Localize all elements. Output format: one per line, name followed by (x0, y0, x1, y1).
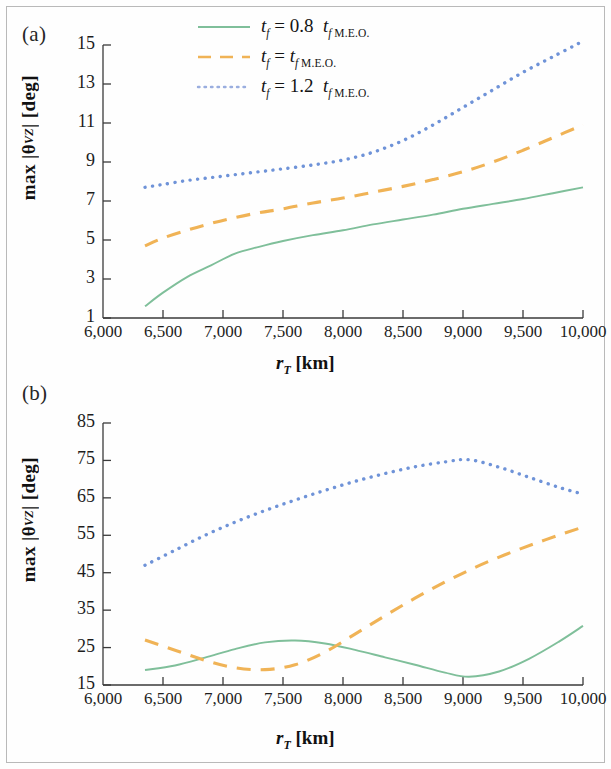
x-tick-label: 8,500 (369, 689, 437, 709)
y-tick-label: 45 (45, 561, 95, 582)
y-tick-label: 25 (45, 636, 95, 657)
y-axis-title-text: max |θVZ| [deg] (18, 75, 39, 200)
x-tick-label: 6,000 (69, 689, 137, 709)
y-tick-label: 7 (45, 189, 95, 210)
y-tick-label: 9 (45, 150, 95, 171)
y-tick-label: 15 (45, 33, 95, 54)
figure-container: (a) max |θVZ| [deg] tf = 0.8 tf M.E.O. t… (0, 0, 611, 769)
y-tick-label: 5 (45, 228, 95, 249)
x-tick-label: 9,000 (429, 689, 497, 709)
y-axis-title-text: max |θVZ| [deg] (18, 457, 39, 582)
x-tick-label: 7,500 (249, 689, 317, 709)
y-tick-label: 13 (45, 72, 95, 93)
y-tick-label: 35 (45, 598, 95, 619)
panel-a-plot-area (103, 45, 583, 318)
x-tick-label: 8,500 (369, 322, 437, 342)
panel-b-label: (b) (22, 381, 47, 406)
legend-item-0[interactable]: tf = 0.8 tf M.E.O. (196, 12, 370, 42)
panel-b: (b) max |θVZ| [deg] rT [km] 152535455565… (0, 379, 611, 769)
x-tick-label: 10,000 (549, 322, 611, 342)
panel-a-curves (103, 45, 583, 318)
panel-a-label: (a) (22, 22, 46, 47)
legend-swatch-solid-icon (196, 20, 252, 34)
panel-a-x-axis-title: rT [km] (276, 352, 335, 378)
panel-a-y-axis-title: max |θVZ| [deg] (18, 75, 40, 200)
x-tick-label: 8,000 (309, 689, 377, 709)
y-tick-label: 65 (45, 486, 95, 507)
x-tick-label: 9,000 (429, 322, 497, 342)
x-tick-label: 9,500 (489, 689, 557, 709)
panel-b-x-axis-title: rT [km] (276, 727, 335, 753)
x-tick-label: 9,500 (489, 322, 557, 342)
x-tick-label: 6,500 (129, 689, 197, 709)
panel-b-plot-area (103, 423, 583, 685)
series-line-2 (145, 41, 583, 187)
y-tick-label: 85 (45, 411, 95, 432)
y-tick-label: 11 (45, 111, 95, 132)
panel-b-curves (103, 423, 583, 685)
x-tick-label: 10,000 (549, 689, 611, 709)
series-line-0 (145, 187, 583, 306)
x-tick-label: 6,000 (69, 322, 137, 342)
x-tick-label: 6,500 (129, 322, 197, 342)
series-line-2 (145, 459, 583, 565)
y-tick-label: 55 (45, 523, 95, 544)
y-tick-label: 3 (45, 267, 95, 288)
legend-label-0: tf = 0.8 tf M.E.O. (261, 15, 370, 39)
x-tick-label: 7,000 (189, 689, 257, 709)
series-line-0 (145, 626, 583, 677)
panel-b-y-axis-title: max |θVZ| [deg] (18, 457, 40, 582)
panel-a: (a) max |θVZ| [deg] tf = 0.8 tf M.E.O. t… (0, 0, 611, 390)
x-tick-label: 7,000 (189, 322, 257, 342)
y-tick-label: 75 (45, 448, 95, 469)
series-line-1 (145, 125, 583, 246)
series-line-1 (145, 527, 583, 670)
x-tick-label: 8,000 (309, 322, 377, 342)
x-tick-label: 7,500 (249, 322, 317, 342)
